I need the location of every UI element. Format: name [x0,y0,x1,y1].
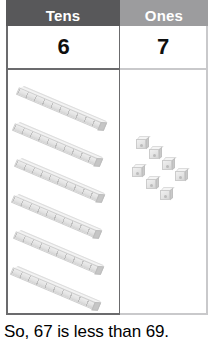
ones-cube [132,164,145,177]
digit-cell-ones: 7 [120,26,208,70]
column-tens: Tens 6 [6,0,120,315]
tens-rod [10,264,99,310]
column-header-tens-label: Tens [46,7,81,26]
cube-dot [153,154,156,157]
comparison-caption: So, 67 is less than 69. [4,322,214,342]
cube-dot [150,184,153,187]
cube-dot [164,195,167,198]
ones-cube [175,168,188,181]
ones-cube [160,187,173,200]
rod-front-face [13,231,99,274]
cube-front-face [136,139,146,149]
place-value-chart: Tens 6 [6,0,208,315]
cube-front-face [175,171,185,181]
cube-side-face [142,165,145,177]
cube-dot [140,144,143,147]
rod-front-face [14,159,100,202]
ones-cube [146,176,159,189]
digit-cell-tens: 6 [6,26,120,70]
cube-front-face [162,160,172,170]
cube-dot [136,172,139,175]
tens-rod [16,84,105,130]
cube-dot [179,176,182,179]
cube-side-face [170,188,173,200]
blocks-cell-tens [6,70,120,315]
digit-value-tens: 6 [57,34,69,60]
ones-cube [136,136,149,149]
ones-cube [149,146,162,159]
cube-front-face [146,179,156,189]
cube-side-face [156,177,159,189]
cube-front-face [160,190,170,200]
digit-value-ones: 7 [157,34,169,60]
ones-cube [162,157,175,170]
cube-front-face [132,167,142,177]
blocks-cell-ones [120,70,208,315]
cube-dot [166,165,169,168]
column-header-ones-label: Ones [145,7,183,26]
column-header-ones: Ones [120,0,208,26]
column-ones: Ones 7 [120,0,208,315]
rod-front-face [10,267,96,310]
cube-front-face [149,149,159,159]
rod-front-face [16,87,102,130]
place-value-chart-figure: Tens 6 [0,0,214,353]
column-header-tens: Tens [6,0,120,26]
cube-side-face [185,169,188,181]
